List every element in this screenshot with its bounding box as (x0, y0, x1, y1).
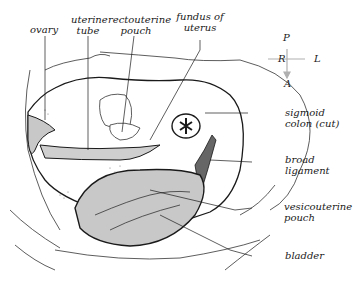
orientation-left: L (314, 53, 321, 64)
label-vesicouterine-line2: pouch (284, 212, 352, 223)
orientation-posterior: P (283, 32, 290, 43)
label-uterine-tube: uterine tube (71, 14, 105, 36)
label-fundus-line1: fundus of (172, 11, 228, 22)
label-rectouterine-pouch: rectouterine pouch (108, 14, 164, 36)
label-broad-line2: ligament (285, 165, 330, 176)
label-broad-line1: broad (285, 154, 330, 165)
pelvis-illustration (0, 0, 353, 282)
label-fundus-of-uterus: fundus of uterus (172, 11, 228, 33)
orientation-right: R (278, 53, 286, 64)
label-rectouterine-pouch-line1: rectouterine (108, 14, 164, 25)
label-vesicouterine-line1: vesicouterine (284, 201, 352, 212)
label-bladder: bladder (285, 250, 324, 261)
label-broad-ligament: broad ligament (285, 154, 330, 176)
label-vesicouterine-pouch: vesicouterine pouch (284, 201, 352, 223)
label-sigmoid-line1: sigmoid (285, 107, 339, 118)
label-ovary: ovary (30, 24, 58, 35)
label-sigmoid-colon: sigmoid colon (cut) (285, 107, 339, 129)
label-fundus-line2: uterus (172, 22, 228, 33)
label-uterine-tube-line2: tube (71, 25, 105, 36)
label-sigmoid-line2: colon (cut) (285, 118, 339, 129)
label-uterine-tube-line1: uterine (71, 14, 105, 25)
orientation-anterior: A (284, 78, 291, 89)
label-rectouterine-pouch-line2: pouch (108, 25, 164, 36)
